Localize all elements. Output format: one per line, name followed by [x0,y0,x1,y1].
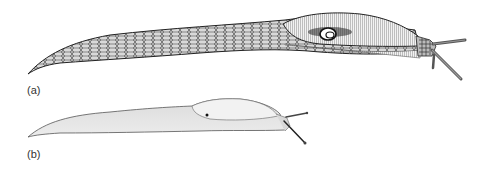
panel-label-a: (a) [27,84,40,96]
slug-b-pneumostome [206,114,209,117]
slug-a [28,13,465,79]
pneumostome-icon [320,28,336,40]
slug-b-lower-tentacle [284,121,305,143]
slug-illustration [0,0,495,192]
panel-label-b: (b) [27,148,40,160]
slug-a-short-tentacle [433,55,434,68]
slug-b-upper-tentacle [286,113,307,117]
slug-b-mantle [192,99,278,120]
slug-b [28,99,308,145]
